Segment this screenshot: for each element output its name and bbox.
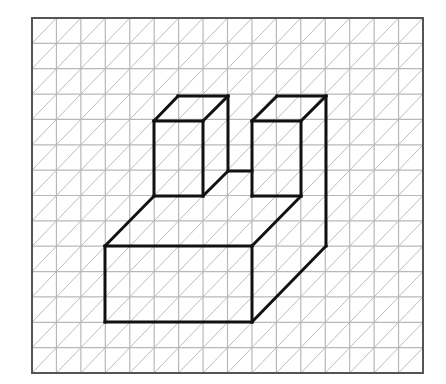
grid-diagonal — [130, 170, 154, 195]
grid-diagonal — [179, 221, 203, 246]
grid-diagonal — [32, 272, 56, 297]
grid-diagonal — [374, 348, 398, 373]
grid-diagonal — [374, 322, 398, 347]
grid-diagonal — [56, 43, 80, 68]
grid-diagonal — [325, 196, 349, 221]
grid-diagonal — [105, 272, 129, 297]
grid-diagonal — [374, 297, 398, 322]
isometric-drawing — [0, 0, 446, 384]
grid-diagonal — [130, 69, 154, 94]
grid-diagonal — [130, 145, 154, 170]
grid-diagonal — [179, 348, 203, 373]
grid-diagonal — [276, 18, 300, 43]
grid-diagonal — [130, 272, 154, 297]
grid-diagonal — [350, 18, 374, 43]
grid-diagonal — [301, 119, 325, 144]
grid-diagonal — [374, 145, 398, 170]
grid-diagonal — [350, 322, 374, 347]
grid-diagonal — [81, 221, 105, 246]
grid-diagonal — [350, 119, 374, 144]
grid-diagonal — [228, 18, 252, 43]
grid-diagonal — [374, 196, 398, 221]
grid-diagonal — [81, 69, 105, 94]
grid-diagonal — [81, 145, 105, 170]
grid-diagonal — [228, 145, 252, 170]
grid-diagonal — [130, 43, 154, 68]
grid-diagonal — [301, 145, 325, 170]
grid-diagonal — [154, 145, 178, 170]
grid-diagonal — [56, 69, 80, 94]
grid-diagonal — [252, 119, 276, 144]
grid-diagonal — [32, 170, 56, 195]
grid-diagonal — [105, 246, 129, 271]
grid-diagonal — [325, 348, 349, 373]
grid-diagonal — [179, 145, 203, 170]
grid-diagonal — [350, 196, 374, 221]
grid-diagonal — [301, 170, 325, 195]
grid-diagonal — [252, 145, 276, 170]
grid-diagonal — [32, 322, 56, 347]
grid-diagonal — [252, 43, 276, 68]
grid-diagonal — [374, 221, 398, 246]
grid-diagonal — [325, 18, 349, 43]
grid-diagonal — [374, 69, 398, 94]
grid-diagonal — [154, 69, 178, 94]
grid-diagonal — [203, 119, 227, 144]
grid-diagonal — [252, 18, 276, 43]
grid-diagonal — [350, 170, 374, 195]
grid-diagonal — [203, 348, 227, 373]
grid-diagonal — [301, 322, 325, 347]
grid-diagonal — [276, 348, 300, 373]
grid-diagonal — [81, 170, 105, 195]
figure-edge — [203, 171, 228, 196]
grid-diagonal — [399, 43, 423, 68]
grid-diagonal — [32, 221, 56, 246]
grid-diagonal — [81, 119, 105, 144]
grid-diagonal — [301, 18, 325, 43]
grid-diagonal — [130, 348, 154, 373]
grid-diagonal — [154, 18, 178, 43]
grid-diagonal — [179, 322, 203, 347]
grid-diagonal — [399, 69, 423, 94]
grid-diagonal — [56, 94, 80, 119]
grid-diagonal — [399, 246, 423, 271]
grid-diagonal — [56, 119, 80, 144]
grid-diagonal — [276, 246, 300, 271]
grid-diagonal — [228, 348, 252, 373]
grid-diagonal — [130, 94, 154, 119]
grid-diagonal — [32, 196, 56, 221]
grid-diagonal — [105, 94, 129, 119]
grid-diagonal — [276, 94, 300, 119]
grid-diagonal — [154, 246, 178, 271]
grid-diagonal — [325, 322, 349, 347]
grid-diagonal — [301, 297, 325, 322]
grid-diagonal — [301, 348, 325, 373]
grid-diagonal — [130, 119, 154, 144]
grid-diagonal — [228, 297, 252, 322]
grid-diagonal — [56, 145, 80, 170]
grid-diagonal — [374, 94, 398, 119]
grid-diagonal — [81, 18, 105, 43]
grid-diagonal — [399, 221, 423, 246]
grid-diagonal — [399, 322, 423, 347]
grid-diagonal — [32, 297, 56, 322]
grid-diagonal — [203, 322, 227, 347]
grid-diagonal — [179, 43, 203, 68]
grid-diagonal — [154, 297, 178, 322]
grid-diagonal — [350, 272, 374, 297]
grid-diagonal — [252, 196, 276, 221]
figure-edge — [154, 96, 178, 121]
grid-diagonal — [350, 246, 374, 271]
grid-diagonal — [276, 297, 300, 322]
grid-diagonal — [81, 297, 105, 322]
grid-diagonal — [203, 246, 227, 271]
grid-diagonal — [399, 145, 423, 170]
grid-diagonal — [56, 322, 80, 347]
grid-diagonal — [154, 170, 178, 195]
grid-diagonal — [154, 348, 178, 373]
grid-diagonal — [228, 94, 252, 119]
grid-diagonal — [179, 18, 203, 43]
grid-diagonal — [154, 272, 178, 297]
grid-diagonal — [252, 69, 276, 94]
grid-diagonal — [228, 43, 252, 68]
